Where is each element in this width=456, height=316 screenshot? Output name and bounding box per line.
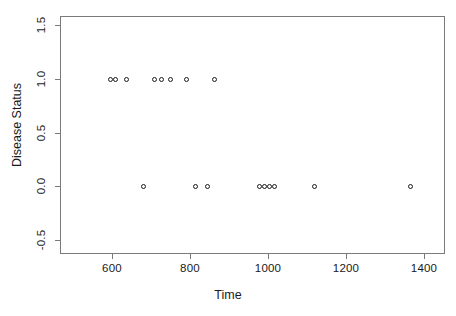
y-tick-label-0-5: 0.5 — [33, 122, 49, 144]
y-tick-neg-0-5 — [55, 240, 60, 241]
y-tick-1-5 — [55, 25, 60, 26]
x-tick-label-800: 800 — [170, 262, 210, 274]
x-tick-label-1400: 1400 — [404, 262, 444, 274]
x-tick-label-1000: 1000 — [248, 262, 288, 274]
y-tick-0-0 — [55, 186, 60, 187]
plot-frame — [60, 16, 445, 254]
x-tick-600 — [112, 254, 113, 259]
y-tick-label-neg-0-5: -0.5 — [33, 229, 49, 251]
x-tick-800 — [190, 254, 191, 259]
x-tick-label-600: 600 — [92, 262, 132, 274]
y-axis-title: Disease Status — [10, 75, 24, 175]
y-tick-1-0 — [55, 79, 60, 80]
x-tick-1400 — [424, 254, 425, 259]
scatter-plot-figure: 600 800 1000 1200 1400 -0.5 0.0 0.5 1.0 … — [0, 0, 456, 316]
x-tick-1200 — [346, 254, 347, 259]
x-axis-title: Time — [0, 288, 456, 302]
y-tick-label-1-0: 1.0 — [33, 68, 49, 90]
y-tick-0-5 — [55, 133, 60, 134]
y-tick-label-1-5: 1.5 — [33, 14, 49, 36]
y-tick-label-0-0: 0.0 — [33, 175, 49, 197]
x-tick-1000 — [268, 254, 269, 259]
x-tick-label-1200: 1200 — [326, 262, 366, 274]
